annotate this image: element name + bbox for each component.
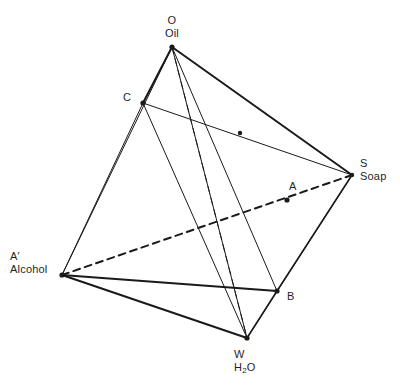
vertex-symbol-Ap: A′ [10, 250, 47, 263]
vertex-name-S: Soap [360, 170, 387, 183]
vertex-name-Ap: Alcohol [10, 263, 47, 276]
edge-Ap-B [62, 275, 277, 291]
vertex-dot-W [244, 335, 249, 340]
vertex-label-W: WH2O [234, 348, 256, 375]
edge-C-W [143, 103, 247, 338]
vertex-symbol-B: B [287, 290, 295, 303]
vertex-label-A: A [289, 180, 297, 193]
vertex-label-Ap: A′Alcohol [10, 250, 47, 275]
vertex-dot-O [169, 44, 174, 49]
edge-C-Ap [62, 103, 143, 275]
diagram-canvas [0, 0, 400, 388]
vertex-label-C: C [123, 91, 131, 104]
vertex-symbol-S: S [360, 157, 387, 170]
vertex-dot-C [140, 100, 145, 105]
vertex-symbol-W: W [234, 348, 256, 361]
edge-C-S [143, 103, 352, 175]
vertex-dot-Ap [59, 272, 64, 277]
vertex-dot-S [350, 173, 354, 177]
vertex-dot-X [238, 131, 242, 135]
vertex-name-O: Oil [132, 27, 212, 40]
vertex-name-W: H2O [234, 361, 256, 376]
vertex-label-B: B [287, 290, 295, 303]
edges-layer [62, 47, 352, 338]
tetrahedron-phase-diagram: OOilCSSoapA′AlcoholWH2OAB [0, 0, 400, 388]
vertex-label-S: SSoap [360, 157, 387, 182]
vertex-dots-layer [59, 44, 354, 340]
vertex-label-O: OOil [132, 14, 212, 39]
edge-Ap-S [62, 175, 352, 275]
vertex-dot-A [284, 197, 289, 202]
vertex-symbol-C: C [123, 91, 131, 104]
vertex-symbol-A: A [289, 180, 297, 193]
vertex-symbol-O: O [132, 14, 212, 27]
vertex-dot-B [274, 288, 279, 293]
edge-Ap-W [62, 275, 247, 338]
edge-W-S [247, 175, 352, 338]
